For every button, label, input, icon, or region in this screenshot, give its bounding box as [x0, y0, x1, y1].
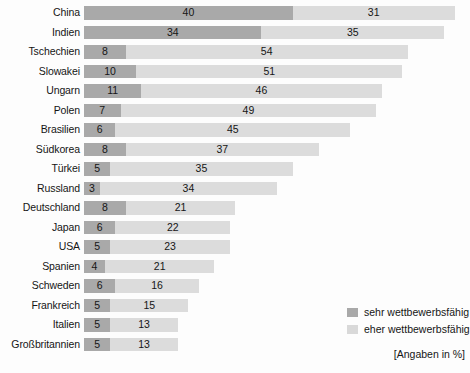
bar-segment-strong: 34: [84, 26, 261, 40]
category-label: Frankreich: [0, 299, 84, 313]
stacked-bar: 3435: [84, 26, 444, 40]
bar-value-label: 15: [110, 299, 188, 313]
chart-row: Tschechien854: [0, 45, 470, 65]
chart-row: Schweden616: [0, 279, 470, 299]
category-label: Slowakei: [0, 65, 84, 79]
chart-row: Spanien421: [0, 260, 470, 280]
bar-segment-weak: 49: [121, 104, 377, 118]
stacked-bar: 535: [84, 162, 293, 176]
bar-value-label: 35: [110, 162, 293, 176]
bar-value-label: 21: [105, 260, 215, 274]
bar-value-label: 34: [100, 182, 277, 196]
bar-value-label: 8: [84, 143, 126, 157]
chart-row: Ungarn1146: [0, 84, 470, 104]
legend-swatch-strong-icon: [347, 308, 358, 317]
bar-value-label: 5: [84, 240, 110, 254]
bar-value-label: 11: [84, 84, 141, 98]
bar-value-label: 54: [126, 45, 408, 59]
chart-row: USA523: [0, 240, 470, 260]
bar-segment-strong: 8: [84, 201, 126, 215]
bar-value-label: 6: [84, 221, 115, 235]
bar-segment-weak: 35: [261, 26, 444, 40]
bar-value-label: 8: [84, 201, 126, 215]
bar-value-label: 6: [84, 279, 115, 293]
bar-value-label: 3: [84, 182, 100, 196]
chart-row: Indien3435: [0, 26, 470, 46]
bar-value-label: 16: [115, 279, 199, 293]
bar-segment-strong: 7: [84, 104, 121, 118]
stacked-bar: 616: [84, 279, 199, 293]
stacked-bar-chart: China4031Indien3435Tschechien854Slowakei…: [0, 0, 470, 373]
bar-value-label: 6: [84, 123, 115, 137]
bar-segment-strong: 6: [84, 221, 115, 235]
bar-value-label: 51: [136, 65, 402, 79]
stacked-bar: 421: [84, 260, 214, 274]
bar-segment-strong: 5: [84, 338, 110, 352]
bar-value-label: 10: [84, 65, 136, 79]
category-label: China: [0, 6, 84, 20]
bar-segment-weak: 37: [126, 143, 319, 157]
bar-segment-strong: 4: [84, 260, 105, 274]
bar-value-label: 31: [293, 6, 455, 20]
bar-value-label: 45: [115, 123, 350, 137]
category-label: Russland: [0, 182, 84, 196]
bar-segment-weak: 15: [110, 299, 188, 313]
chart-row: Polen749: [0, 104, 470, 124]
category-label: USA: [0, 240, 84, 254]
bar-segment-weak: 13: [110, 318, 178, 332]
bar-segment-weak: 13: [110, 338, 178, 352]
stacked-bar: 622: [84, 221, 230, 235]
bar-value-label: 13: [110, 338, 178, 352]
chart-legend: sehr wettbewerbsfähig eher wettbewerbsfä…: [347, 305, 470, 339]
legend-item-strong[interactable]: sehr wettbewerbsfähig: [347, 305, 470, 319]
category-label: Polen: [0, 104, 84, 118]
stacked-bar: 854: [84, 45, 408, 59]
bar-segment-weak: 22: [115, 221, 230, 235]
chart-row: Japan622: [0, 221, 470, 241]
bar-segment-strong: 6: [84, 279, 115, 293]
bar-segment-strong: 8: [84, 143, 126, 157]
category-label: Spanien: [0, 260, 84, 274]
chart-row: Slowakei1051: [0, 65, 470, 85]
bar-value-label: 8: [84, 45, 126, 59]
stacked-bar: 513: [84, 338, 178, 352]
bar-segment-strong: 5: [84, 162, 110, 176]
stacked-bar: 334: [84, 182, 277, 196]
category-label: Ungarn: [0, 84, 84, 98]
bar-segment-weak: 21: [126, 201, 236, 215]
bar-segment-strong: 5: [84, 299, 110, 313]
stacked-bar: 837: [84, 143, 319, 157]
stacked-bar: 4031: [84, 6, 455, 20]
bar-segment-strong: 6: [84, 123, 115, 137]
bar-value-label: 5: [84, 338, 110, 352]
legend-item-weak[interactable]: eher wettbewerbsfähig: [347, 322, 470, 336]
bar-segment-weak: 31: [293, 6, 455, 20]
category-label: Indien: [0, 26, 84, 40]
legend-label-strong: sehr wettbewerbsfähig: [364, 306, 469, 318]
bar-value-label: 23: [110, 240, 230, 254]
stacked-bar: 1051: [84, 65, 402, 79]
bar-segment-weak: 21: [105, 260, 215, 274]
stacked-bar: 523: [84, 240, 230, 254]
bar-value-label: 21: [126, 201, 236, 215]
bar-value-label: 46: [141, 84, 381, 98]
bar-segment-strong: 11: [84, 84, 141, 98]
bar-value-label: 4: [84, 260, 105, 274]
category-label: Japan: [0, 221, 84, 235]
bar-segment-strong: 40: [84, 6, 293, 20]
bar-value-label: 22: [115, 221, 230, 235]
chart-row: Türkei535: [0, 162, 470, 182]
legend-swatch-weak-icon: [347, 325, 358, 334]
category-label: Tschechien: [0, 45, 84, 59]
bar-segment-weak: 45: [115, 123, 350, 137]
bar-segment-strong: 10: [84, 65, 136, 79]
bar-value-label: 5: [84, 162, 110, 176]
chart-row: Südkorea837: [0, 143, 470, 163]
bar-value-label: 13: [110, 318, 178, 332]
bar-segment-strong: 5: [84, 318, 110, 332]
bar-value-label: 7: [84, 104, 121, 118]
stacked-bar: 749: [84, 104, 376, 118]
bar-value-label: 49: [121, 104, 377, 118]
bar-value-label: 5: [84, 318, 110, 332]
bar-segment-strong: 5: [84, 240, 110, 254]
